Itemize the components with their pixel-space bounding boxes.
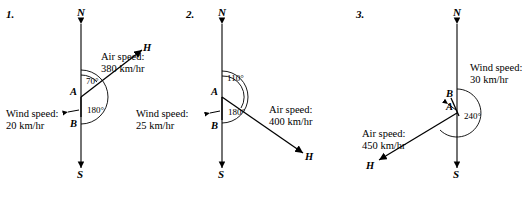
figure-1-graphic [0,0,176,203]
figure-2-point-h: H [305,151,313,162]
figure-3-point-b: B [446,88,453,99]
figure-1-point-b: B [70,118,77,129]
figure-3-air-speed-label: Air speed: 450 km/hr [362,128,405,151]
figure-1-air-speed-label: Air speed: 380 km/hr [101,51,144,74]
figure-2-point-b: B [211,120,218,131]
figure-2-graphic [176,0,352,203]
figure-3-point-a: A [446,101,453,112]
figure-3-point-h: H [366,160,374,171]
figure-1-axis-north: N [77,6,85,18]
figure-2: 2. N S A B H 110° 180° Air speed: 400 km… [176,0,352,203]
figure-3-angle-240: 240° [464,111,481,121]
figure-3-graphic [352,0,529,203]
figure-2-axis-north: N [218,6,226,18]
figure-2-wind-speed-label: Wind speed: 25 km/hr [136,108,188,131]
figure-2-air-speed-label: Air speed: 400 km/hr [269,104,312,127]
figure-1: 1. N S A B H 70° 180° Air speed: 380 km/… [0,0,176,203]
figure-3-axis-north: N [453,6,461,18]
figure-1-wind-speed-label: Wind speed: 20 km/hr [6,108,58,131]
figure-2-angle-180: 180° [228,107,245,117]
figure-1-point-a: A [70,86,77,97]
figure-1-angle-180: 180° [87,105,104,115]
figure-2-angle-110: 110° [227,73,244,83]
figure-1-wind-arrow [68,110,79,112]
figure-2-wind-arrow [210,111,220,113]
figure-2-axis-south: S [218,168,224,180]
figure-2-point-a: A [211,86,218,97]
figure-3: 3. N S B A H 240° Wind speed: 30 km/hr A… [352,0,529,203]
figure-3-axis-south: S [453,168,459,180]
figure-1-angle-70: 70° [86,76,99,86]
figure-3-wind-speed-label: Wind speed: 30 km/hr [470,62,522,85]
figure-1-axis-south: S [77,168,83,180]
